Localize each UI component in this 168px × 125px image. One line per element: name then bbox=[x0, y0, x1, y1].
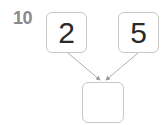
top-right-number-box: 5 bbox=[118, 12, 159, 53]
problem-number: 10 bbox=[13, 8, 32, 29]
top-left-number-box: 2 bbox=[46, 12, 87, 53]
right-arrow-icon bbox=[106, 53, 138, 80]
top-left-value: 2 bbox=[58, 16, 75, 50]
top-right-value: 5 bbox=[130, 16, 147, 50]
left-arrow-icon bbox=[68, 53, 100, 80]
answer-box[interactable] bbox=[82, 82, 124, 123]
